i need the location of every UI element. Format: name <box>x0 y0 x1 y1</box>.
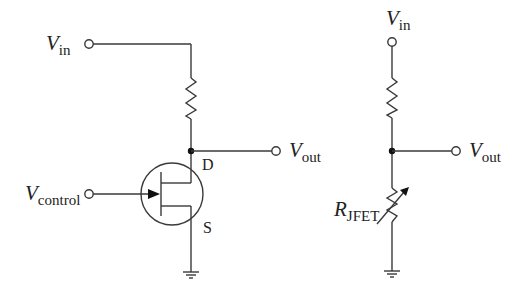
vout-terminal-right <box>452 147 460 155</box>
vcontrol-label: Vcontrol <box>25 183 80 208</box>
vin-label-right: Vin <box>386 8 411 33</box>
source-label: S <box>203 220 212 236</box>
circuit-diagram <box>0 0 512 303</box>
rjfet-label: RJFET <box>334 199 379 224</box>
vout-label: Vout <box>289 140 321 165</box>
vin-label: Vin <box>46 33 71 58</box>
drain-label: D <box>202 157 214 173</box>
jfet-icon <box>93 163 203 225</box>
vin-terminal <box>85 40 93 48</box>
vin-terminal-right <box>388 38 396 46</box>
variable-resistor-icon <box>377 187 409 224</box>
vout-label-right: Vout <box>469 140 501 165</box>
right-circuit <box>377 38 460 277</box>
vout-terminal <box>272 147 280 155</box>
resistor-icon <box>186 78 196 119</box>
ground-icon <box>183 272 199 278</box>
ground-icon <box>384 271 400 277</box>
vcontrol-terminal <box>85 190 93 198</box>
left-circuit <box>85 40 280 278</box>
resistor-icon <box>387 78 397 118</box>
